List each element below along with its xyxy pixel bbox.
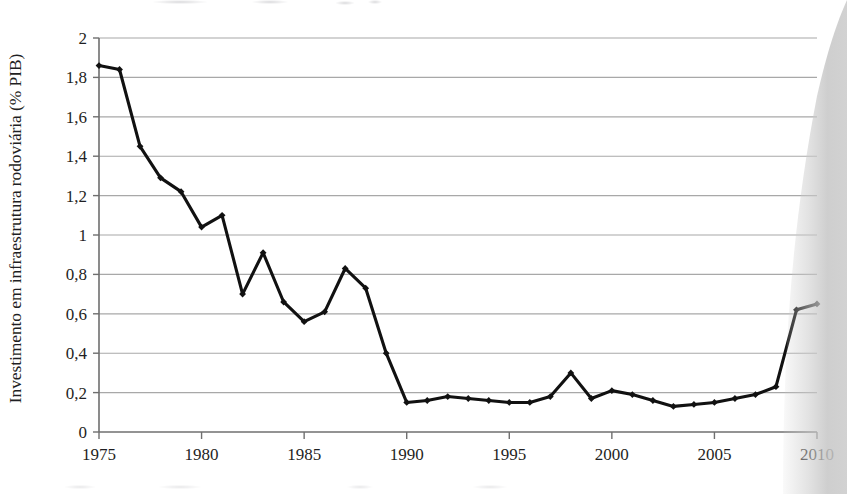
data-point-marker xyxy=(116,66,123,73)
y-tick-label: 1,2 xyxy=(66,187,87,206)
y-axis-label: Investimento em infraestrutura rodoviári… xyxy=(2,0,30,456)
x-tick-label: 1990 xyxy=(390,445,424,464)
x-tick-label: 1975 xyxy=(82,445,116,464)
data-point-marker xyxy=(444,393,451,400)
data-point-marker xyxy=(691,401,698,408)
y-tick-label: 1,6 xyxy=(66,108,87,127)
y-tick-label: 0,2 xyxy=(66,384,87,403)
data-point-marker xyxy=(526,399,533,406)
x-tick-label: 1980 xyxy=(185,445,219,464)
y-tick-label: 2 xyxy=(79,29,88,48)
y-tick-label: 0,6 xyxy=(66,305,87,324)
x-tick-label: 2000 xyxy=(595,445,629,464)
y-tick-label: 1 xyxy=(79,226,88,245)
data-point-marker xyxy=(814,301,821,308)
y-axis-tick-labels: 00,20,40,60,811,21,41,61,82 xyxy=(66,29,88,442)
data-point-marker xyxy=(485,397,492,404)
data-point-marker xyxy=(424,397,431,404)
y-tick-label: 1,8 xyxy=(66,68,87,87)
y-tick-label: 0,8 xyxy=(66,265,87,284)
x-axis-tick-labels: 19751980198519901995200020052010 xyxy=(82,445,834,464)
data-point-marker xyxy=(465,395,472,402)
x-tick-label: 1995 xyxy=(492,445,526,464)
data-point-marker xyxy=(96,62,103,69)
data-point-marker xyxy=(711,399,718,406)
x-tick-label: 1985 xyxy=(287,445,321,464)
y-axis-label-text: Investimento em infraestrutura rodoviári… xyxy=(6,53,27,402)
x-axis-tick-marks xyxy=(99,432,817,439)
data-point-markers xyxy=(96,62,821,410)
y-tick-label: 0,4 xyxy=(66,344,88,363)
x-tick-label: 2010 xyxy=(800,445,834,464)
data-point-marker xyxy=(793,306,800,313)
data-point-marker xyxy=(649,397,656,404)
y-axis-tick-marks xyxy=(93,38,99,432)
chart-page: Investimento em infraestrutura rodoviári… xyxy=(0,0,847,494)
y-tick-label: 1,4 xyxy=(66,147,88,166)
data-point-marker xyxy=(732,395,739,402)
gridlines xyxy=(99,38,817,393)
data-point-marker xyxy=(506,399,513,406)
y-tick-label: 0 xyxy=(79,423,88,442)
line-chart: 00,20,40,60,811,21,41,61,82 197519801985… xyxy=(0,0,847,494)
x-tick-label: 2005 xyxy=(697,445,731,464)
data-point-marker xyxy=(670,403,677,410)
